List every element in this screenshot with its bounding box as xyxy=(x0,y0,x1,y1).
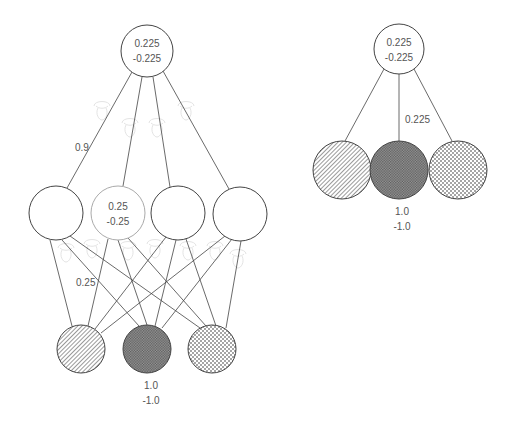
left-network: 0.225 -0.225 0.9 0.25 -0.25 0.25 1.0 -1.… xyxy=(29,25,267,406)
weight-label-output-hidden: 0.9 xyxy=(75,142,89,153)
input-node-diagonal-hatch xyxy=(57,325,105,373)
right-input-value-negative: -1.0 xyxy=(393,221,411,232)
right-input-node-dots xyxy=(429,141,487,199)
right-weight-label: 0.225 xyxy=(405,114,430,125)
hidden-node-3 xyxy=(151,186,205,240)
edges-output-input xyxy=(345,69,452,141)
hidden-node-2-value-negative: -0.25 xyxy=(107,216,130,227)
hidden-node-2-value-positive: 0.25 xyxy=(108,201,128,212)
ghost-glyphs-top xyxy=(94,102,194,138)
hidden-node-4 xyxy=(213,187,267,241)
hidden-node-1 xyxy=(29,186,83,240)
right-output-node: 0.225 -0.225 xyxy=(374,24,424,74)
neural-network-diagram: 0.225 -0.225 0.9 0.25 -0.25 0.25 1.0 -1.… xyxy=(0,0,512,429)
output-node: 0.225 -0.225 xyxy=(121,25,173,77)
edges-output-hidden xyxy=(67,71,229,189)
ghost-glyphs-bottom xyxy=(58,240,246,269)
hidden-node-2 xyxy=(91,186,145,240)
weight-label-hidden-input: 0.25 xyxy=(76,277,96,288)
right-output-value-positive: 0.225 xyxy=(386,37,411,48)
right-input-node-diagonal-hatch xyxy=(313,141,371,199)
right-network: 0.225 -0.225 0.225 1.0 -1.0 xyxy=(313,24,487,232)
input-node-cross-hatch xyxy=(123,325,171,373)
right-input-node-cross-hatch xyxy=(370,141,428,199)
hidden-layer: 0.25 -0.25 xyxy=(29,186,267,241)
right-input-value-positive: 1.0 xyxy=(395,206,409,217)
right-input-layer xyxy=(313,141,487,199)
right-output-value-negative: -0.225 xyxy=(385,52,414,63)
output-value-negative: -0.225 xyxy=(133,53,162,64)
input-layer xyxy=(57,325,236,373)
output-value-positive: 0.225 xyxy=(134,38,159,49)
input-node-dots xyxy=(188,325,236,373)
input-value-negative: -1.0 xyxy=(142,395,160,406)
input-value-positive: 1.0 xyxy=(144,380,158,391)
